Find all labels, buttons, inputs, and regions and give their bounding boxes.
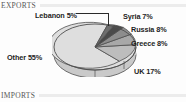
pie-label-other: Other 55% — [7, 53, 42, 62]
pie-chart-svg — [52, 11, 138, 85]
pie-label-uk: UK 17% — [134, 67, 161, 76]
leader-line-lebanon-vertical — [108, 13, 109, 26]
pie-label-syria: Syria 7% — [123, 12, 153, 21]
section-header-exports-rule — [40, 4, 186, 7]
section-header-imports: IMPORTS — [0, 90, 186, 101]
section-header-imports-label: IMPORTS — [0, 91, 35, 100]
pie-label-lebanon: Lebanon 5% — [35, 11, 77, 20]
pie-label-greece: Greece 8% — [131, 39, 167, 48]
chart-area: Lebanon 5% Syria 7% Russia 8% Greece 8% … — [0, 9, 186, 89]
section-header-imports-rule — [39, 94, 186, 97]
pie-label-russia: Russia 8% — [131, 25, 167, 34]
leader-line-lebanon-horizontal — [76, 13, 109, 14]
exports-pie-chart-figure: EXPORTS — [0, 0, 186, 102]
